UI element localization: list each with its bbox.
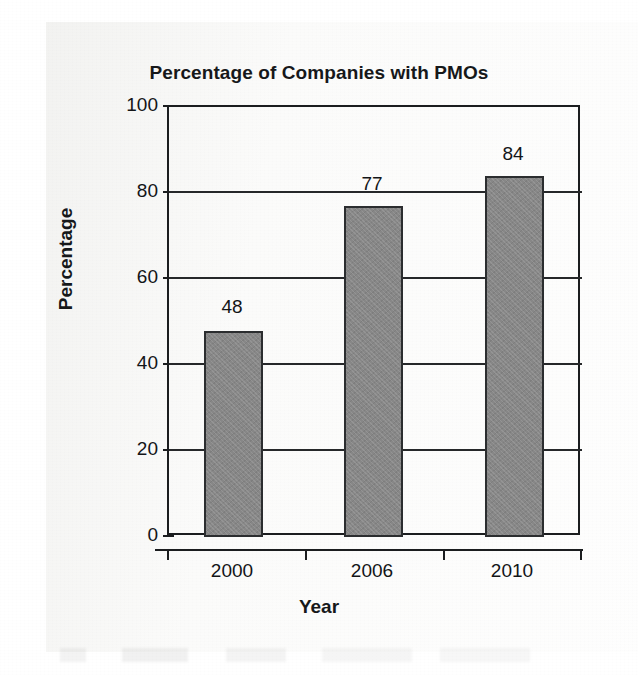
x-tick-label-2006: 2006 [317,560,427,582]
y-tick-label-40: 40 [98,353,158,372]
y-tick-label-0: 0 [98,525,158,544]
x-tick-mark-2 [443,549,445,560]
bar-2000[interactable] [204,331,263,537]
y-tick-label-80: 80 [98,181,158,200]
scanned-page: Percentage of Companies with PMOs Percen… [0,0,638,675]
x-tick-mark-left [167,549,169,560]
bar-value-label-2010: 84 [483,143,543,165]
bar-2006[interactable] [344,206,403,537]
x-axis-title: Year [0,596,638,618]
x-tick-label-2000: 2000 [177,560,287,582]
x-tick-mark-right [580,549,582,560]
x-tick-label-2010: 2010 [457,560,567,582]
chart-title: Percentage of Companies with PMOs [0,62,638,84]
y-tick-label-60: 60 [98,267,158,286]
y-tick-mark-0 [163,535,174,537]
y-tick-label-20: 20 [98,439,158,458]
bar-chart: Percentage of Companies with PMOs Percen… [0,0,638,675]
y-axis-title: Percentage [55,179,77,339]
bar-value-label-2000: 48 [202,296,262,318]
x-axis-line [155,549,583,551]
bar-value-label-2006: 77 [342,173,402,195]
x-tick-mark-1 [305,549,307,560]
bar-2010[interactable] [485,176,544,537]
y-tick-label-100: 100 [98,95,158,114]
plot-area [167,105,580,535]
